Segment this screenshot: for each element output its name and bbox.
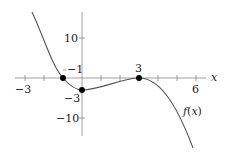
point-double-root-3 [136, 75, 142, 81]
x-tick-label-6: 6 [192, 83, 199, 96]
point-root-neg1 [60, 75, 66, 81]
x-tick-label-neg3: −3 [15, 83, 31, 96]
x-axis-label: x [211, 71, 218, 84]
y-tick-label-neg10: −10 [56, 112, 79, 125]
function-plot: −1 −3 3 −3 6 10 −10 x f(x) [0, 0, 230, 154]
label-neg1: −1 [67, 63, 83, 76]
label-neg3-y: −3 [64, 92, 80, 105]
function-curve [32, 12, 193, 148]
label-3: 3 [135, 62, 142, 75]
function-label-close: ) [198, 105, 202, 118]
y-tick-label-10: 10 [64, 32, 78, 45]
function-label: f(x) [182, 105, 202, 118]
plot-svg: −1 −3 3 −3 6 10 −10 x f(x) [0, 0, 230, 154]
